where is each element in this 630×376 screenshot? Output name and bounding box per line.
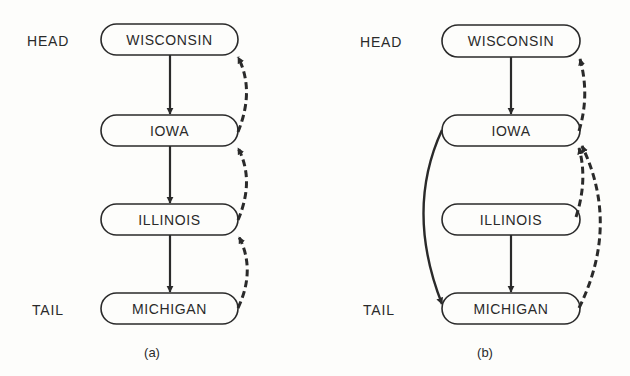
next-link-arrow — [424, 130, 443, 304]
tail-label: TAIL — [32, 302, 64, 318]
node-wisconsin: WISCONSIN — [101, 24, 238, 55]
head-label: HEAD — [360, 34, 402, 50]
node-michigan: MICHIGAN — [101, 293, 238, 324]
node-iowa: IOWA — [442, 115, 580, 146]
svg-text:IOWA: IOWA — [491, 123, 530, 139]
node-iowa: IOWA — [101, 115, 238, 146]
svg-text:WISCONSIN: WISCONSIN — [126, 32, 212, 48]
tail-label: TAIL — [363, 302, 395, 318]
svg-text:WISCONSIN: WISCONSIN — [468, 33, 554, 49]
caption-b: (b) — [477, 345, 493, 360]
svg-text:ILLINOIS: ILLINOIS — [480, 212, 542, 228]
prev-link-arrow — [579, 59, 585, 131]
diagram-a: HEAD TAIL WISCONSIN IOWA ILLINOIS MICHIG… — [27, 24, 247, 360]
svg-text:MICHIGAN: MICHIGAN — [132, 301, 207, 317]
prev-link-arrow — [238, 57, 247, 132]
diagram-b: HEAD TAIL WISCONSIN IOWA ILLINOIS MICHIG… — [360, 25, 600, 360]
caption-a: (a) — [144, 345, 160, 360]
linked-list-figure: HEAD TAIL WISCONSIN IOWA ILLINOIS MICHIG… — [0, 0, 630, 376]
prev-link-arrow — [238, 237, 247, 308]
node-michigan: MICHIGAN — [442, 293, 580, 324]
prev-link-arrow — [576, 148, 583, 217]
svg-text:IOWA: IOWA — [150, 123, 189, 139]
svg-text:MICHIGAN: MICHIGAN — [474, 301, 549, 317]
head-label: HEAD — [27, 33, 69, 49]
svg-text:ILLINOIS: ILLINOIS — [138, 212, 200, 228]
node-wisconsin: WISCONSIN — [442, 25, 580, 57]
prev-link-arrow — [238, 148, 247, 220]
node-illinois: ILLINOIS — [442, 204, 580, 235]
node-illinois: ILLINOIS — [101, 204, 238, 235]
